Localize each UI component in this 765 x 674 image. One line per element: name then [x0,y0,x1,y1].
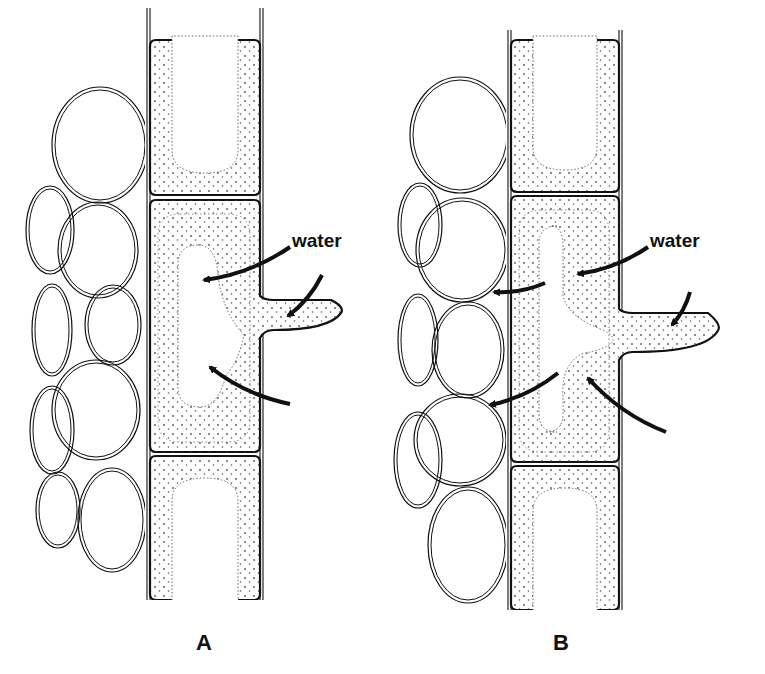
cortex-cell [52,87,148,203]
cortex-cell [32,284,72,376]
vacuole [533,36,597,170]
cortex-cell [414,394,506,486]
upper-cell [511,36,619,192]
cortex-cell [416,198,508,302]
panel-a [26,0,342,640]
cortex-cell [428,487,508,603]
cortex-cell [26,186,74,274]
panel-b [394,0,719,650]
water-label-b: water [649,230,700,251]
vacuole [172,36,238,173]
cortex-cell [398,294,438,386]
cortex-cell [78,468,146,572]
lower-cell [511,466,619,614]
cortex-cell [52,360,140,460]
cortex-cell [398,183,442,267]
cortex-cell [36,472,80,548]
cortex-cell [410,77,510,193]
panel-b-label: B [553,630,569,655]
lower-cell [150,456,260,604]
cortex-cell [432,302,504,398]
cortex-cell [30,386,74,474]
cortex-cell [85,285,141,365]
root-hair-osmosis-diagram: A B water water [0,0,765,674]
panel-a-label: A [196,630,212,655]
water-label-a: water [291,230,342,251]
upper-cell [150,36,260,195]
vacuole [172,478,238,604]
vacuole [533,488,597,614]
